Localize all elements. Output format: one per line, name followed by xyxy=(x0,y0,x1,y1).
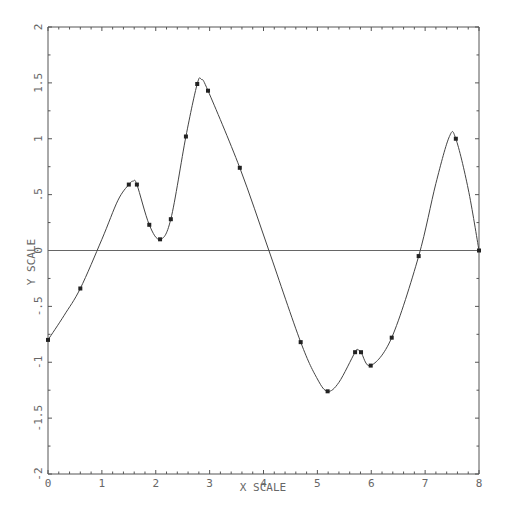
data-point-marker xyxy=(353,350,357,354)
data-point-marker xyxy=(454,137,458,141)
x-tick-label: 6 xyxy=(368,477,375,490)
y-tick-label: 1 xyxy=(32,135,45,142)
data-point-marker xyxy=(158,237,162,241)
data-point-marker xyxy=(417,254,421,258)
y-tick-label: -1.5 xyxy=(32,405,45,432)
data-curve xyxy=(48,78,479,392)
data-point-marker xyxy=(195,82,199,86)
y-tick-label: -2 xyxy=(32,467,45,480)
x-axis-title: X SCALE xyxy=(240,481,286,494)
y-tick-label: -.5 xyxy=(32,296,45,316)
x-tick-label: 8 xyxy=(476,477,483,490)
data-point-marker xyxy=(78,286,82,290)
data-point-marker xyxy=(206,89,210,93)
x-tick-label: 3 xyxy=(206,477,213,490)
data-point-marker xyxy=(390,336,394,340)
y-tick-label: 2 xyxy=(32,24,45,31)
x-tick-label: 0 xyxy=(45,477,52,490)
x-tick-label: 1 xyxy=(99,477,106,490)
data-point-marker xyxy=(46,338,50,342)
data-point-marker xyxy=(299,340,303,344)
data-point-marker xyxy=(184,135,188,139)
y-tick-label: .5 xyxy=(32,188,45,201)
data-point-marker xyxy=(369,364,373,368)
data-point-marker xyxy=(326,389,330,393)
x-tick-label: 5 xyxy=(314,477,321,490)
x-tick-label: 2 xyxy=(152,477,159,490)
y-tick-label: 1.5 xyxy=(32,73,45,93)
line-chart: 012345678 -2-1.5-1-.50.511.52 X SCALE Y … xyxy=(0,0,508,518)
y-tick-label: -1 xyxy=(32,356,45,369)
data-point-marker xyxy=(127,183,131,187)
data-point-marker xyxy=(238,166,242,170)
data-point-marker xyxy=(169,217,173,221)
data-point-marker xyxy=(359,350,363,354)
data-point-marker xyxy=(147,223,151,227)
x-tick-label: 7 xyxy=(422,477,429,490)
data-point-marker xyxy=(477,249,481,253)
y-axis-title: Y SCALE xyxy=(25,239,38,285)
data-point-marker xyxy=(135,183,139,187)
data-point-markers xyxy=(46,82,481,393)
